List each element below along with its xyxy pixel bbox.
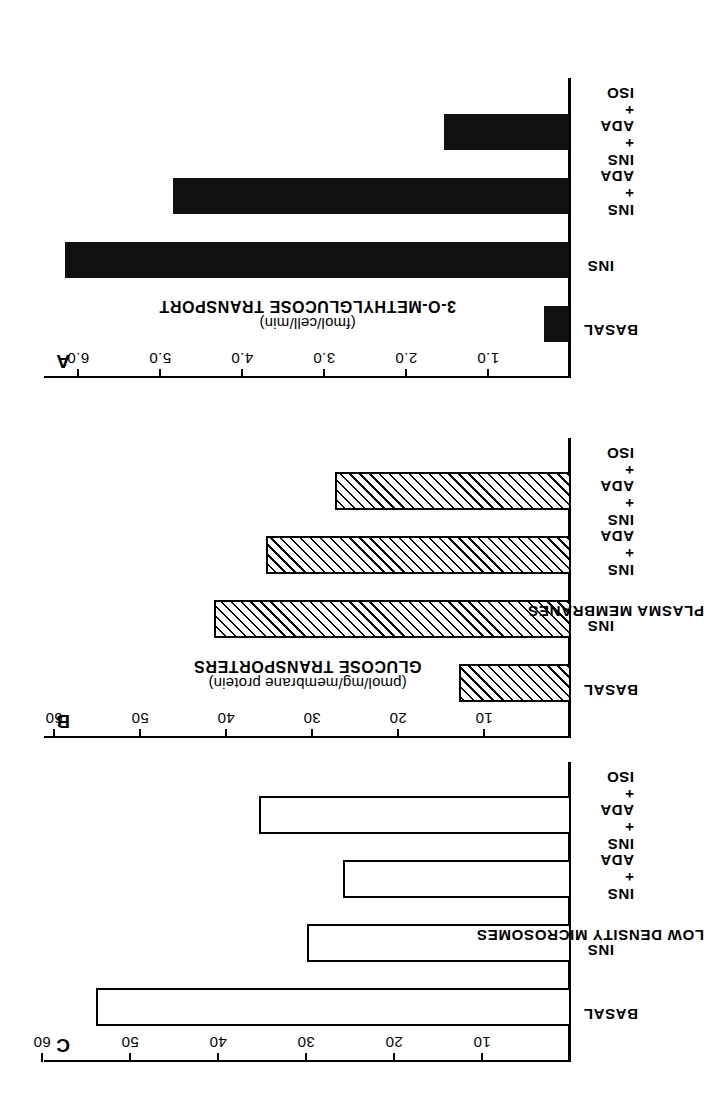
axis-tick <box>487 369 489 378</box>
figure-upright: A 1.0 2.0 3.0 4.0 5.0 6.0 <box>0 0 726 1100</box>
panel-c-group-title: LOW DENSITY MICROSOMES <box>476 927 704 944</box>
axis-tick <box>393 1053 395 1062</box>
axis-tick <box>305 1053 307 1062</box>
axis-tick-label: 5.0 <box>149 350 171 367</box>
bar-ins-ada-iso <box>259 796 571 834</box>
category-label-ins-ada-iso: INS+ADA+ISO <box>600 84 634 168</box>
axis-tick <box>405 369 407 378</box>
category-label-ins-ada-iso: INS+ADA+ISO <box>600 444 634 528</box>
axis-tick <box>129 1053 131 1062</box>
axis-tick-label: 60 <box>33 1034 51 1051</box>
axis-tick <box>159 369 161 378</box>
axis-tick-label: 4.0 <box>231 350 253 367</box>
axis-tick-label: 50 <box>131 710 149 727</box>
panel-b-group-title: PLASMA MEMBRANES <box>528 603 704 620</box>
category-label-basal: BASAL <box>583 321 638 338</box>
bar-ins-ada <box>343 860 571 898</box>
axis-tick <box>139 729 141 738</box>
panel-c-value-axis <box>44 1060 571 1062</box>
axis-tick <box>77 369 79 378</box>
bar-ins <box>65 242 569 278</box>
axis-tick-label: 40 <box>209 1034 227 1051</box>
axis-tick-label: 2.0 <box>395 350 417 367</box>
axis-tick-label: 10 <box>473 1034 491 1051</box>
category-label-basal: BASAL <box>583 681 638 698</box>
panel-c: C 10 20 30 40 50 60 <box>0 762 726 1062</box>
figure-rotated-container: A 1.0 2.0 3.0 4.0 5.0 6.0 <box>0 0 726 1100</box>
axis-tick <box>53 729 55 738</box>
category-label-ins-ada-iso: INS+ADA+ISO <box>600 768 634 852</box>
axis-tick-label: 3.0 <box>313 350 335 367</box>
panel-a-plot: 1.0 2.0 3.0 4.0 5.0 6.0 BASAL INS INS+AD… <box>0 78 726 378</box>
axis-title-unit-line: (fmol/cell/min) <box>44 315 571 332</box>
axis-tick <box>483 729 485 738</box>
axis-tick-label: 6.0 <box>67 350 89 367</box>
category-label-ins-ada: INS+ADA <box>600 852 634 902</box>
category-label-ins: INS <box>587 257 614 274</box>
category-label-basal: BASAL <box>583 1005 638 1022</box>
panel-b-axis-title: (pmol/mg/membrane protein) GLUCOSE TRANS… <box>44 657 571 692</box>
panel-b: B 10 20 30 40 50 60 <box>0 438 726 738</box>
panel-b-plot: 10 20 30 40 50 60 BASAL INS INS+ADA INS+… <box>0 438 726 738</box>
axis-title-unit-line: (pmol/mg/membrane protein) <box>44 675 571 692</box>
bar-ins <box>214 600 571 638</box>
axis-title-main: 3-O-METHYLGLUCOSE TRANSPORT <box>159 298 456 315</box>
axis-tick-label: 40 <box>217 710 235 727</box>
panel-a-value-axis <box>44 376 571 378</box>
bar-ins-ada-iso <box>335 472 571 510</box>
axis-tick-label: 1.0 <box>477 350 499 367</box>
axis-tick <box>225 729 227 738</box>
axis-tick <box>241 369 243 378</box>
bar-ins-ada <box>266 536 571 574</box>
axis-tick-label: 20 <box>385 1034 403 1051</box>
panel-c-plot: 10 20 30 40 50 60 BASAL INS INS+ADA INS+… <box>0 762 726 1062</box>
axis-tick-label: 10 <box>475 710 493 727</box>
axis-tick <box>481 1053 483 1062</box>
panel-a: A 1.0 2.0 3.0 4.0 5.0 6.0 <box>0 78 726 378</box>
axis-tick-label: 20 <box>389 710 407 727</box>
axis-title-main: GLUCOSE TRANSPORTERS <box>194 658 422 675</box>
axis-tick-label: 60 <box>45 710 63 727</box>
axis-tick-label: 30 <box>303 710 321 727</box>
axis-tick <box>41 1053 43 1062</box>
bar-basal <box>96 988 571 1026</box>
axis-tick <box>311 729 313 738</box>
axis-tick <box>217 1053 219 1062</box>
category-label-ins-ada: INS+ADA <box>600 528 634 578</box>
axis-tick-label: 50 <box>121 1034 139 1051</box>
axis-tick-label: 30 <box>297 1034 315 1051</box>
panel-b-value-axis <box>44 736 571 738</box>
axis-tick <box>323 369 325 378</box>
panel-a-axis-title: (fmol/cell/min) 3-O-METHYLGLUCOSE TRANSP… <box>44 297 571 332</box>
axis-tick <box>397 729 399 738</box>
bar-ins-ada <box>173 178 569 214</box>
bar-ins-ada-iso <box>444 114 569 150</box>
category-label-ins-ada: INS+ADA <box>600 168 634 218</box>
figure-stage: A 1.0 2.0 3.0 4.0 5.0 6.0 <box>0 0 726 1100</box>
